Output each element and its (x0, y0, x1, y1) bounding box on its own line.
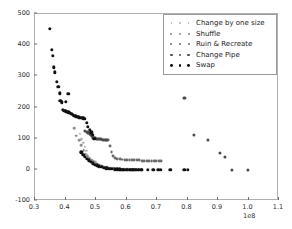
legend-marker-icon (167, 33, 193, 35)
legend-label: Ruin & Recreate (193, 39, 252, 50)
data-point (110, 151, 113, 154)
x-tick-mark (156, 197, 157, 200)
figure: -1000100200300400500 0.30.40.50.60.70.80… (0, 0, 292, 229)
data-point (57, 85, 60, 88)
data-point (79, 133, 81, 135)
y-tick-label: 100 (0, 134, 30, 142)
data-point (246, 168, 249, 171)
data-point (183, 96, 186, 99)
x-tick-mark (187, 197, 188, 200)
x-tick-mark (217, 197, 218, 200)
x-tick-mark (34, 197, 35, 200)
x-tick-mark (95, 197, 96, 200)
y-tick-mark (34, 106, 37, 107)
legend-label: Swap (193, 60, 215, 71)
data-point (50, 48, 53, 51)
legend-item[interactable]: Change by one size (167, 18, 272, 29)
data-point (159, 168, 162, 171)
x-tick-mark (248, 197, 249, 200)
legend-label: Change by one size (193, 18, 265, 29)
x-tick-mark (278, 197, 279, 200)
data-point (230, 168, 233, 171)
data-point (186, 168, 189, 171)
data-point (75, 134, 78, 137)
legend-label: Change Pipe (193, 50, 240, 61)
data-point (51, 54, 54, 57)
y-tick-mark (34, 137, 37, 138)
data-point (55, 80, 58, 83)
data-point (169, 168, 172, 171)
data-point (82, 149, 85, 152)
data-point (146, 168, 149, 171)
x-tick-label: 1.0 (242, 203, 252, 211)
data-point (206, 138, 209, 141)
data-point (160, 160, 163, 163)
legend-marker-icon (167, 43, 193, 45)
data-point (84, 146, 86, 148)
x-tick-mark (65, 197, 66, 200)
legend-marker-icon (167, 22, 193, 24)
legend-item[interactable]: Ruin & Recreate (167, 39, 272, 50)
x-tick-mark (126, 197, 127, 200)
x-tick-label: 0.9 (212, 203, 222, 211)
data-point (223, 155, 226, 158)
legend-marker-icon (167, 64, 193, 67)
data-point (80, 138, 82, 140)
y-tick-label: -100 (0, 196, 30, 204)
data-point (218, 151, 221, 154)
y-tick-label: 0 (0, 165, 30, 173)
data-point (80, 144, 83, 147)
data-point (139, 168, 142, 171)
y-tick-mark (34, 44, 37, 45)
legend-label: Shuffle (193, 29, 220, 40)
data-point (52, 66, 55, 69)
data-point (67, 92, 70, 95)
data-point (78, 139, 81, 142)
legend-marker-icon (167, 54, 193, 57)
y-tick-label: 500 (0, 9, 30, 17)
data-point (73, 127, 76, 130)
x-tick-label: 0.4 (59, 203, 69, 211)
data-point (83, 117, 86, 120)
data-point (53, 71, 56, 74)
legend-item[interactable]: Swap (167, 60, 272, 71)
x-tick-label: 0.3 (29, 203, 39, 211)
y-tick-mark (34, 75, 37, 76)
legend: Change by one sizeShuffleRuin & Recreate… (163, 14, 277, 75)
y-tick-label: 300 (0, 71, 30, 79)
data-point (152, 168, 155, 171)
legend-item[interactable]: Shuffle (167, 29, 272, 40)
data-point (48, 27, 51, 30)
data-point (108, 145, 111, 148)
x-tick-label: 1.1 (273, 203, 283, 211)
y-tick-mark (34, 168, 37, 169)
data-point (192, 133, 195, 136)
legend-item[interactable]: Change Pipe (167, 50, 272, 61)
y-tick-label: 200 (0, 103, 30, 111)
data-point (58, 92, 61, 95)
x-tick-label: 0.5 (90, 203, 100, 211)
x-tick-label: 0.8 (181, 203, 191, 211)
y-tick-label: 400 (0, 40, 30, 48)
x-tick-label: 0.7 (151, 203, 161, 211)
data-point (64, 100, 67, 103)
y-tick-mark (34, 13, 37, 14)
x-axis-exponent-label: 1e8 (243, 212, 255, 220)
x-tick-label: 0.6 (120, 203, 130, 211)
